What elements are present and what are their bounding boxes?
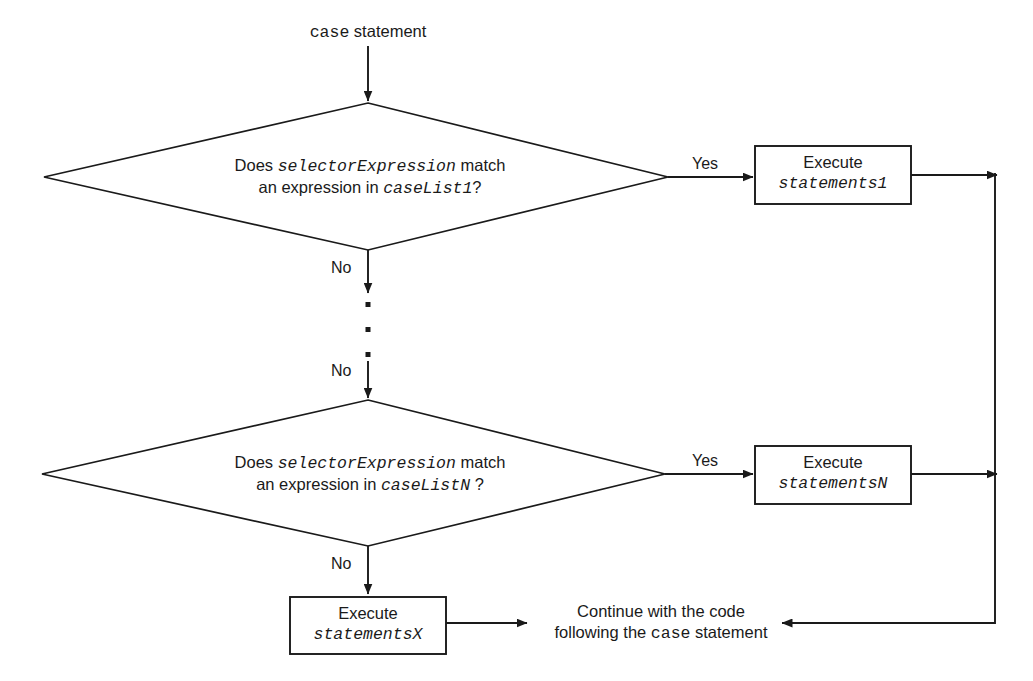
decision-2-line2-pre: an expression in	[256, 475, 381, 493]
decision-2-line1-post: match	[456, 453, 506, 471]
execute-statements-n-label: Execute statementsN	[779, 452, 888, 494]
decision-1-line2-pre: an expression in	[258, 178, 383, 196]
decision-2-line1-code: selectorExpression	[278, 454, 456, 473]
decision-1-line1-post: match	[456, 156, 506, 174]
edge-right-rail	[782, 173, 995, 623]
decision-2-label: Does selectorExpression match an express…	[235, 452, 506, 496]
ellipsis-dot	[366, 327, 371, 332]
execute-statements-1-line2: statements1	[779, 173, 888, 194]
decision-2-line1-pre: Does	[235, 453, 278, 471]
terminal-label: Continue with the code following the cas…	[555, 601, 768, 644]
execute-statements-1-label: Execute statements1	[779, 152, 888, 194]
decision-1-line2-post: ?	[472, 178, 481, 196]
execute-statements-x-line2: statementsX	[314, 624, 423, 645]
execute-statements-n-line1: Execute	[779, 452, 888, 473]
decision-1-line2-code: caseList1	[383, 179, 472, 198]
execute-statements-n-line2: statementsN	[779, 473, 888, 494]
edge-label-no-2: No	[331, 361, 351, 381]
terminal-line1: Continue with the code	[555, 601, 768, 622]
execute-statements-x-label: Execute statementsX	[314, 603, 423, 645]
terminal-line2-code: case	[651, 624, 691, 643]
flowchart-canvas	[0, 0, 1033, 681]
ellipsis-dot	[366, 302, 371, 307]
ellipsis-dot	[366, 352, 371, 357]
edge-label-yes-2: Yes	[692, 451, 718, 471]
edge-label-yes-1: Yes	[692, 154, 718, 174]
entry-label: case statement	[310, 21, 427, 43]
entry-label-text: statement	[349, 22, 426, 40]
execute-statements-1-line1: Execute	[779, 152, 888, 173]
edge-label-no-1: No	[331, 258, 351, 278]
decision-1-line1-pre: Does	[235, 156, 278, 174]
entry-label-code: case	[310, 23, 350, 42]
decision-1-line1-code: selectorExpression	[278, 157, 456, 176]
decision-2-line2-code: caseListN	[381, 476, 470, 495]
execute-statements-x-line1: Execute	[314, 603, 423, 624]
terminal-line2-pre: following the	[555, 623, 651, 641]
edge-label-no-3: No	[331, 554, 351, 574]
decision-2-line2-post: ?	[470, 475, 484, 493]
decision-1-label: Does selectorExpression match an express…	[235, 155, 506, 199]
terminal-line2-post: statement	[690, 623, 767, 641]
flowchart-diagram: case statement Does selectorExpression m…	[0, 0, 1033, 681]
